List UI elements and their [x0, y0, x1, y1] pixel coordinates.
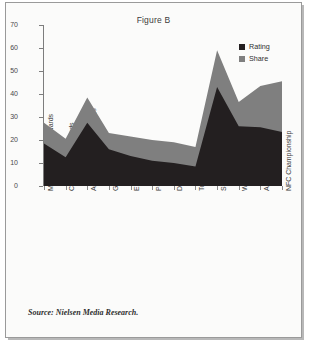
- x-tick-1: [66, 186, 67, 190]
- y-tick-label-40: 40: [0, 90, 18, 97]
- y-tick-label-20: 20: [0, 136, 18, 143]
- x-tick-10: [260, 186, 261, 190]
- legend-swatch-rating-icon: [239, 44, 245, 50]
- legend-label-rating: Rating: [249, 42, 270, 51]
- y-tick-40: [39, 94, 43, 95]
- source-note: Source: Nielsen Media Research.: [28, 308, 138, 317]
- legend-label-share: Share: [249, 54, 268, 63]
- y-tick-30: [39, 117, 43, 118]
- x-axis-label-11: NFC Championship: [285, 131, 292, 191]
- x-tick-2: [87, 186, 88, 190]
- x-tick-7: [195, 186, 196, 190]
- figure-frame: Figure B Nationally Televised Events 010…: [5, 2, 302, 338]
- y-tick-label-60: 60: [0, 44, 18, 51]
- y-tick-label-50: 50: [0, 67, 18, 74]
- x-tick-8: [217, 186, 218, 190]
- y-tick-0: [39, 186, 43, 187]
- y-tick-label-10: 10: [0, 159, 18, 166]
- y-tick-label-70: 70: [0, 21, 18, 28]
- y-tick-label-0: 0: [0, 182, 18, 189]
- x-tick-0: [44, 186, 45, 190]
- y-tick-70: [39, 25, 43, 26]
- y-tick-label-30: 30: [0, 113, 18, 120]
- x-tick-9: [239, 186, 240, 190]
- x-tick-5: [152, 186, 153, 190]
- y-tick-10: [39, 163, 43, 164]
- x-tick-4: [131, 186, 132, 190]
- x-tick-6: [174, 186, 175, 190]
- legend-swatch-share-icon: [239, 56, 245, 62]
- chart-legend: RatingShare: [239, 42, 270, 66]
- x-tick-3: [109, 186, 110, 190]
- y-tick-20: [39, 140, 43, 141]
- legend-item-share: Share: [239, 54, 270, 63]
- y-tick-60: [39, 48, 43, 49]
- chart-title: Figure B: [6, 15, 301, 25]
- legend-item-rating: Rating: [239, 42, 270, 51]
- x-tick-11: [282, 186, 283, 190]
- y-tick-50: [39, 71, 43, 72]
